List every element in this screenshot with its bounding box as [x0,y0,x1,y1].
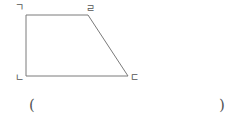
vertex-label-top-right: ㄹ [86,4,95,14]
trapezoid-shape [26,15,128,76]
vertex-label-bottom-left: ㄴ [15,73,24,83]
answer-blank[interactable] [42,96,212,114]
open-parenthesis: ( [29,96,35,114]
vertex-label-bottom-right: ㄷ [130,73,139,83]
vertex-label-top-left: ㄱ [15,3,24,13]
answer-blank-row: ( ) [0,96,237,116]
close-parenthesis: ) [219,96,225,114]
